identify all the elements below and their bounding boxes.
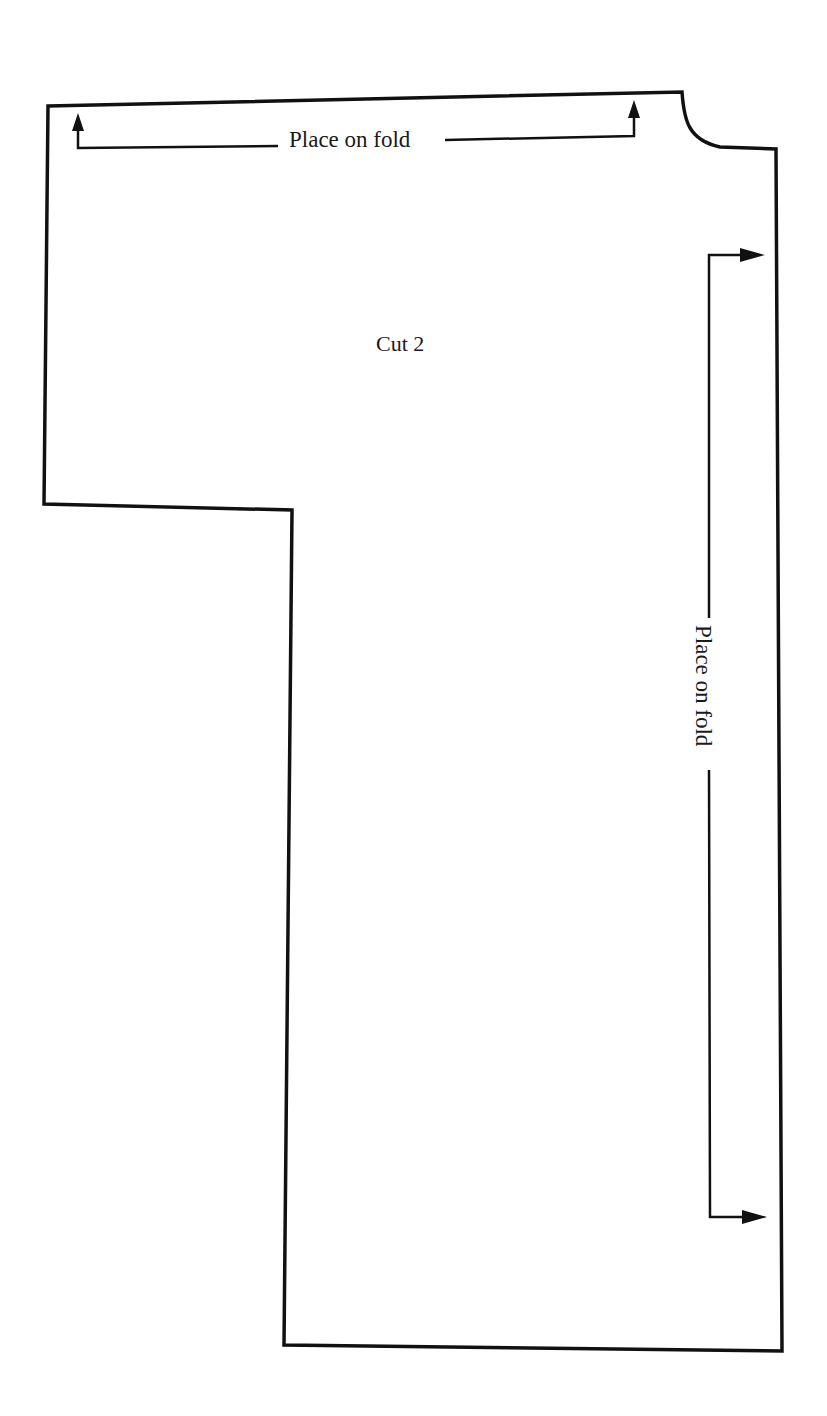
pattern-outline xyxy=(44,92,782,1351)
arrow-up-icon xyxy=(628,100,640,118)
top-fold-line-right xyxy=(445,116,634,140)
cut-instruction: Cut 2 xyxy=(376,331,424,357)
arrow-up-icon xyxy=(72,113,84,131)
right-fold-line-top xyxy=(709,255,742,618)
top-fold-label: Place on fold xyxy=(289,127,410,153)
arrow-right-icon xyxy=(742,1210,767,1224)
arrow-right-icon xyxy=(740,248,765,262)
right-fold-line-bottom xyxy=(709,770,744,1217)
top-fold-line-left xyxy=(78,128,278,148)
right-fold-bracket xyxy=(709,248,767,1224)
right-fold-label: Place on fold xyxy=(690,625,716,746)
